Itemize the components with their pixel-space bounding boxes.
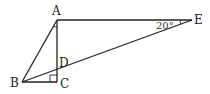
label-b: B xyxy=(10,76,19,90)
label-c: C xyxy=(60,77,69,91)
geometry-diagram: A B C D E 20° xyxy=(0,0,210,94)
segment-ab xyxy=(22,20,57,82)
angle-label-e: 20° xyxy=(156,20,174,31)
right-angle-mark-c xyxy=(50,75,57,82)
label-e: E xyxy=(194,13,203,27)
label-d: D xyxy=(59,56,69,70)
label-a: A xyxy=(51,4,61,18)
